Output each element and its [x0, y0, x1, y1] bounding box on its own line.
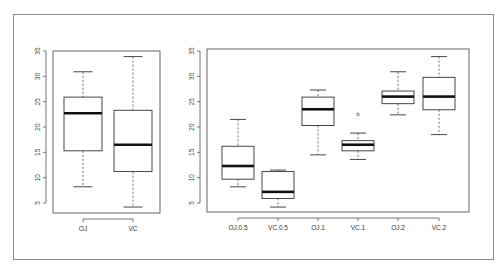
y-tick-label: 15	[188, 148, 195, 156]
y-tick-label: 30	[188, 72, 195, 80]
y-tick-label: 35	[34, 47, 41, 55]
iqr-box	[302, 97, 334, 125]
y-tick-label: 30	[34, 72, 41, 80]
boxplot-supp-dose: 5101520253035OJ.0.5VC.0.5OJ.1VC.1OJ.2VC.…	[188, 47, 469, 231]
boxplot-figure: 5101520253035OJVC 5101520253035OJ.0.5VC.…	[0, 0, 502, 267]
iqr-box	[423, 77, 455, 109]
x-tick-label: VC.2	[432, 224, 447, 231]
box-oj-2	[382, 72, 414, 115]
x-tick-label: OJ.2	[391, 224, 405, 231]
plot-area-frame	[207, 49, 469, 212]
box-oj	[64, 72, 102, 187]
y-tick-label: 5	[34, 201, 41, 205]
box-vc-1	[342, 113, 374, 159]
boxplot-supp: 5101520253035OJVC	[34, 47, 160, 232]
x-tick-label: VC.0.5	[268, 224, 288, 231]
iqr-box	[114, 110, 152, 171]
y-tick-label: 15	[34, 148, 41, 156]
box-vc	[114, 57, 152, 207]
x-tick-label: OJ	[79, 225, 87, 232]
x-tick-label: OJ.1	[311, 224, 325, 231]
iqr-box	[64, 97, 102, 151]
box-oj-1	[302, 90, 334, 155]
box-vc-0-5	[262, 170, 294, 207]
box-oj-0-5	[222, 119, 254, 186]
box-vc-2	[423, 57, 455, 135]
iqr-box	[222, 146, 254, 179]
y-tick-label: 25	[34, 98, 41, 106]
y-tick-label: 10	[188, 174, 195, 182]
y-tick-label: 10	[34, 174, 41, 182]
y-tick-label: 20	[34, 123, 41, 131]
x-tick-label: OJ.0.5	[228, 224, 248, 231]
y-tick-label: 25	[188, 98, 195, 106]
x-tick-label: VC.1	[351, 224, 366, 231]
y-tick-label: 20	[188, 123, 195, 131]
iqr-box	[262, 172, 294, 199]
y-tick-label: 35	[188, 47, 195, 55]
outlier-point	[357, 113, 360, 116]
y-tick-label: 5	[188, 201, 195, 205]
x-tick-label: VC	[128, 225, 137, 232]
